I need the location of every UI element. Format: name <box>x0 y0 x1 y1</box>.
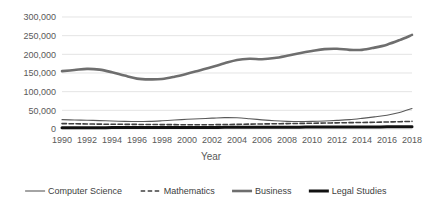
series-line-legal-studies <box>62 127 412 128</box>
x-tick-label: 2000 <box>177 135 197 145</box>
x-tick-label: 1998 <box>152 135 172 145</box>
y-tick-label: 300,000 <box>23 12 56 22</box>
line-chart: 050,000100,000150,000200,000250,000300,0… <box>0 0 423 206</box>
x-tick-label: 1996 <box>127 135 147 145</box>
y-tick-label: 100,000 <box>23 87 56 97</box>
x-axis-title: Year <box>201 151 222 162</box>
legend-label-legal-studies: Legal Studies <box>332 186 387 196</box>
x-tick-label: 1992 <box>77 135 97 145</box>
y-tick-label: 50,000 <box>28 106 56 116</box>
x-tick-label: 2018 <box>402 135 422 145</box>
x-tick-label: 2002 <box>202 135 222 145</box>
y-tick-label: 200,000 <box>23 50 56 60</box>
x-tick-label: 2010 <box>302 135 322 145</box>
x-tick-label: 2004 <box>227 135 247 145</box>
x-tick-label: 1990 <box>52 135 72 145</box>
chart-canvas: 050,000100,000150,000200,000250,000300,0… <box>0 0 423 206</box>
chart-legend: Computer ScienceMathematicsBusinessLegal… <box>25 186 387 196</box>
x-tick-label: 2008 <box>277 135 297 145</box>
legend-label-mathematics: Mathematics <box>164 186 216 196</box>
legend-label-business: Business <box>255 186 292 196</box>
x-tick-label: 2006 <box>252 135 272 145</box>
x-axis-tick-labels: 1990199219941996199820002002200420062008… <box>52 135 422 145</box>
y-tick-label: 150,000 <box>23 68 56 78</box>
y-tick-label: 250,000 <box>23 31 56 41</box>
x-tick-label: 2014 <box>352 135 372 145</box>
legend-label-computer-science: Computer Science <box>48 186 122 196</box>
chart-background <box>0 0 423 206</box>
x-tick-label: 2016 <box>377 135 397 145</box>
x-tick-label: 2012 <box>327 135 347 145</box>
x-tick-label: 1994 <box>102 135 122 145</box>
y-tick-label: 0 <box>51 124 56 134</box>
